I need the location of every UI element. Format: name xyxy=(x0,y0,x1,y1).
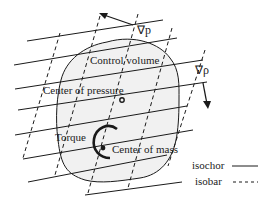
center-of-pressure-label: Center of pressure xyxy=(43,85,124,96)
legend-isobar-label: isobar xyxy=(195,176,222,187)
legend-isochor-label: isochor xyxy=(192,160,224,171)
grad-p-arrow xyxy=(99,13,133,25)
center-of-mass-marker xyxy=(101,146,106,151)
control-volume-label: Control volume xyxy=(90,55,159,66)
grad-rho-arrow xyxy=(203,83,211,109)
torque-label: Torque xyxy=(55,132,86,143)
center-of-mass-label: Center of mass xyxy=(112,144,178,155)
grad-rho-label: ∇ρ xyxy=(195,64,209,76)
grad-p-label: ∇p xyxy=(137,24,151,36)
diagram-canvas xyxy=(0,0,271,203)
